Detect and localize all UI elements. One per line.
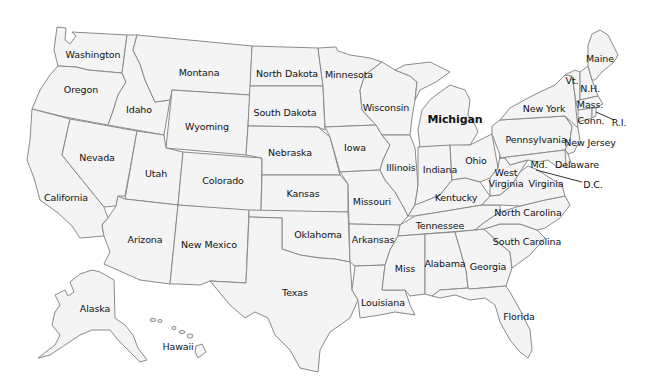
label-new-mexico: New Mexico (181, 239, 237, 250)
label-north-carolina: North Carolina (494, 207, 561, 218)
label-iowa: Iowa (344, 142, 366, 153)
label-georgia: Georgia (470, 261, 507, 272)
state-north-dakota[interactable] (250, 46, 323, 86)
state-hawaii[interactable] (150, 319, 206, 359)
label-new-york: New York (523, 103, 566, 114)
label-minnesota: Minnesota (325, 69, 373, 80)
label-idaho: Idaho (126, 104, 152, 115)
label-delaware: Delaware (555, 159, 599, 170)
label-kentucky: Kentucky (435, 192, 478, 203)
label-texas: Texas (282, 287, 308, 298)
label-oklahoma: Oklahoma (294, 229, 342, 240)
label-massachusetts: Mass. (577, 99, 603, 110)
label-arizona: Arizona (128, 234, 163, 245)
label-alaska: Alaska (80, 303, 110, 314)
label-indiana: Indiana (423, 164, 457, 175)
label-virginia: Virginia (528, 178, 563, 189)
label-hawaii: Hawaii (162, 341, 193, 352)
label-michigan: Michigan (427, 114, 482, 125)
label-montana: Montana (179, 67, 220, 78)
label-wisconsin: Wisconsin (363, 102, 410, 113)
label-missouri: Missouri (353, 196, 391, 207)
us-map: WashingtonOregonCaliforniaNevadaIdahoMon… (0, 0, 654, 388)
label-alabama: Alabama (424, 258, 465, 269)
label-new-jersey: New Jersey (564, 137, 616, 148)
label-kansas: Kansas (286, 188, 319, 199)
label-mississippi: Miss (395, 263, 415, 274)
label-connecticut: Conn. (577, 115, 604, 126)
label-oregon: Oregon (64, 84, 98, 95)
label-south-dakota: South Dakota (253, 107, 316, 118)
label-california: California (44, 192, 88, 203)
label-louisiana: Louisiana (361, 297, 405, 308)
label-dc: D.C. (583, 179, 603, 190)
label-pennsylvania: Pennsylvania (505, 134, 566, 145)
label-vermont: Vt. (566, 75, 579, 86)
label-colorado: Colorado (202, 175, 244, 186)
label-illinois: Illinois (386, 162, 415, 173)
label-west-virginia: West Virginia (488, 167, 523, 189)
state-alaska[interactable] (38, 270, 147, 362)
state-florida[interactable] (432, 286, 532, 358)
label-ohio: Ohio (465, 155, 487, 166)
label-wyoming: Wyoming (185, 121, 229, 132)
label-tennessee: Tennessee (416, 220, 465, 231)
label-maryland: Md. (531, 159, 548, 170)
label-arkansas: Arkansas (352, 234, 395, 245)
label-florida: Florida (503, 311, 535, 322)
label-nebraska: Nebraska (268, 147, 312, 158)
label-rhode-island: R.I. (612, 117, 627, 128)
label-nevada: Nevada (79, 152, 115, 163)
label-washington: Washington (66, 49, 121, 60)
label-south-carolina: South Carolina (493, 236, 561, 247)
label-utah: Utah (145, 168, 167, 179)
label-maine: Maine (586, 53, 614, 64)
label-north-dakota: North Dakota (256, 68, 318, 79)
label-new-hampshire: N.H. (580, 83, 600, 94)
